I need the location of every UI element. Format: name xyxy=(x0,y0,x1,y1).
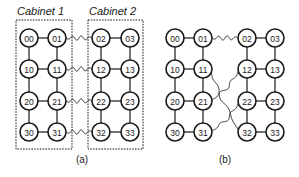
node-label: 31 xyxy=(52,128,62,138)
node-31: 31 xyxy=(48,123,66,141)
panel-panel_a: Cabinet 1Cabinet 20001020310111213202122… xyxy=(16,5,143,165)
node-label: 00 xyxy=(24,34,34,44)
node-label: 03 xyxy=(270,34,280,44)
node-label: 20 xyxy=(170,97,180,107)
node-label: 22 xyxy=(242,97,252,107)
node-13: 13 xyxy=(266,60,284,78)
node-label: 12 xyxy=(96,65,106,75)
node-label: 11 xyxy=(199,65,208,75)
node-33: 33 xyxy=(266,123,284,141)
node-02: 02 xyxy=(92,29,110,47)
node-label: 12 xyxy=(242,65,252,75)
node-label: 10 xyxy=(24,65,34,75)
node-01: 01 xyxy=(48,29,66,47)
node-label: 11 xyxy=(53,65,62,75)
node-20: 20 xyxy=(166,92,184,110)
node-10: 10 xyxy=(166,60,184,78)
node-label: 21 xyxy=(198,97,208,107)
panel-panel_b: 00010203101112132021222330313233(b) xyxy=(166,29,284,165)
node-12: 12 xyxy=(238,60,256,78)
node-30: 30 xyxy=(20,123,38,141)
node-32: 32 xyxy=(238,123,256,141)
node-22: 22 xyxy=(92,92,110,110)
node-label: 13 xyxy=(270,65,280,75)
node-label: 21 xyxy=(52,97,62,107)
node-label: 23 xyxy=(270,97,280,107)
node-30: 30 xyxy=(166,123,184,141)
node-11: 11 xyxy=(194,60,212,78)
panel-panel_a-caption: (a) xyxy=(76,154,88,165)
node-20: 20 xyxy=(20,92,38,110)
node-33: 33 xyxy=(121,123,139,141)
node-label: 23 xyxy=(125,97,135,107)
node-22: 22 xyxy=(238,92,256,110)
node-label: 33 xyxy=(125,128,135,138)
panel-panel_b-caption: (b) xyxy=(219,154,231,165)
node-02: 02 xyxy=(238,29,256,47)
node-23: 23 xyxy=(266,92,284,110)
node-21: 21 xyxy=(48,92,66,110)
node-label: 32 xyxy=(96,128,106,138)
node-label: 02 xyxy=(96,34,106,44)
cabinet-1-label: Cabinet 1 xyxy=(17,5,64,17)
node-label: 03 xyxy=(125,34,135,44)
node-label: 13 xyxy=(125,65,135,75)
node-label: 30 xyxy=(170,128,180,138)
node-00: 00 xyxy=(20,29,38,47)
node-01: 01 xyxy=(194,29,212,47)
node-label: 31 xyxy=(198,128,208,138)
node-label: 20 xyxy=(24,97,34,107)
node-label: 01 xyxy=(198,34,208,44)
node-label: 00 xyxy=(170,34,180,44)
wavy-link-31-32 xyxy=(66,130,92,134)
wavy-link-21-12 xyxy=(211,71,238,100)
node-23: 23 xyxy=(121,92,139,110)
node-21: 21 xyxy=(194,92,212,110)
cabinet-topology-diagram: Cabinet 1Cabinet 20001020310111213202122… xyxy=(0,0,299,177)
wavy-link-01-02 xyxy=(212,36,238,40)
node-label: 30 xyxy=(24,128,34,138)
node-32: 32 xyxy=(92,123,110,141)
node-label: 22 xyxy=(96,97,106,107)
node-11: 11 xyxy=(48,60,66,78)
node-13: 13 xyxy=(121,60,139,78)
wavy-link-31-22 xyxy=(211,103,238,131)
node-label: 10 xyxy=(170,65,180,75)
node-10: 10 xyxy=(20,60,38,78)
node-03: 03 xyxy=(266,29,284,47)
node-00: 00 xyxy=(166,29,184,47)
node-31: 31 xyxy=(194,123,212,141)
node-03: 03 xyxy=(121,29,139,47)
node-label: 02 xyxy=(242,34,252,44)
node-label: 01 xyxy=(52,34,62,44)
node-label: 33 xyxy=(270,128,280,138)
node-12: 12 xyxy=(92,60,110,78)
cabinet-2-label: Cabinet 2 xyxy=(89,5,136,17)
node-label: 32 xyxy=(242,128,252,138)
